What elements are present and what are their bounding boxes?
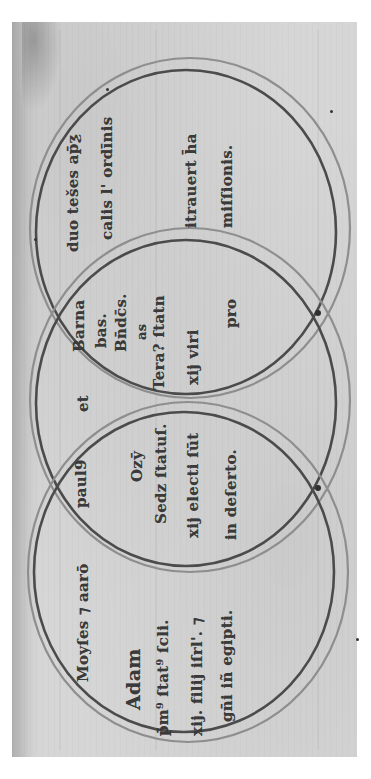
overlap-upper-line7: pro: [222, 299, 240, 328]
top-label-line2: calis l' ordīnis: [98, 117, 116, 240]
bottom-line2: p̄m⁹ ſtat⁹ ſcli.: [154, 619, 172, 736]
ink-speck: [34, 238, 37, 241]
overlap-upper-line6: xij viri: [184, 329, 202, 385]
top-body-line1: itrauert h̄a: [182, 133, 200, 228]
overlap-lower-line2: Ozȳ: [128, 451, 146, 482]
bottom-line1: Adam: [122, 648, 144, 710]
ink-speck: [356, 638, 359, 641]
ink-speck: [106, 88, 109, 91]
overlap-lower-line4: xij electi ſūt: [184, 432, 202, 538]
overlap-upper-line5: Tera? ſtatn: [150, 295, 168, 390]
overlap-lower-line5: in deſerto.: [222, 449, 240, 540]
overlap-lower-line3: Sedz ſtatuſ.: [152, 423, 170, 524]
bottom-line3: xij. filij iſrl'. ⁊: [188, 618, 206, 736]
ink-crossing: [315, 485, 321, 491]
ink-speck: [330, 110, 333, 113]
top-label-line1: duo tešes ap̄ƺ: [64, 133, 82, 252]
overlap-lower-line1: paul9: [72, 459, 90, 508]
overlap-upper-line1: Barna: [70, 300, 88, 352]
overlap-upper-line3: Bn̄dc̄s.: [112, 293, 130, 352]
bottom-heading: Moyſes ⁊ aarō: [74, 564, 92, 682]
overlap-upper-line4: as: [134, 324, 149, 340]
ink-crossing: [315, 310, 321, 316]
three-circle-diagram: [0, 0, 371, 779]
top-body-line2: miſſionis.: [218, 145, 236, 228]
bottom-line4: gn̄i iñ egipti.: [218, 610, 236, 722]
overlap-upper-line2: bas.: [92, 313, 110, 348]
middle-connector: et: [74, 395, 92, 412]
